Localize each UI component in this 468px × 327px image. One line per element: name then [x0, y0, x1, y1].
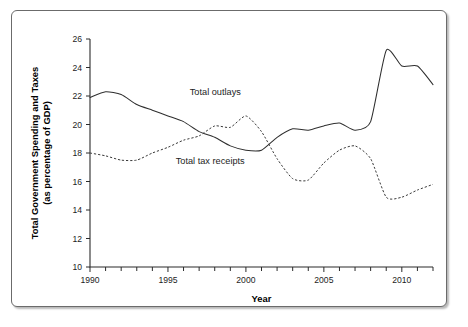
axes-group — [90, 39, 433, 267]
x-axis-title: Year — [252, 293, 272, 304]
x-tick-label: 2000 — [236, 275, 255, 285]
y-tick-label: 14 — [72, 205, 82, 215]
series-annotation-2: Total tax receipts — [176, 156, 245, 166]
y-tick-label: 20 — [72, 120, 82, 130]
y-tick-label: 12 — [72, 234, 82, 244]
y-tick-label: 10 — [72, 262, 82, 272]
axis-titles-group: YearTotal Government Spending and Taxes(… — [29, 67, 272, 304]
y-tick-label: 18 — [72, 148, 82, 158]
series-line-2 — [90, 116, 433, 199]
x-tick-label: 1990 — [80, 275, 99, 285]
x-tick-label: 2010 — [392, 275, 411, 285]
y-tick-label: 26 — [72, 34, 82, 44]
y-tick-label: 22 — [72, 91, 82, 101]
y-axis-title-line2: (as percentage of GDP) — [41, 101, 52, 205]
series-annotation-1: Total outlays — [190, 87, 241, 97]
figure-frame: 10121416182022242619901995200020052010 T… — [11, 10, 447, 307]
series-line-1 — [90, 49, 433, 151]
axis-lines — [90, 39, 433, 267]
y-tick-label: 16 — [72, 177, 82, 187]
line-chart: 10121416182022242619901995200020052010 T… — [12, 11, 447, 307]
series-group — [90, 49, 433, 199]
y-axis-title-line1: Total Government Spending and Taxes — [29, 67, 40, 240]
y-tick-label: 24 — [72, 63, 82, 73]
x-tick-label: 2005 — [314, 275, 333, 285]
x-tick-label: 1995 — [158, 275, 177, 285]
figure-root: 10121416182022242619901995200020052010 T… — [0, 0, 468, 327]
series-labels-group: Total outlaysTotal tax receipts — [176, 87, 245, 167]
